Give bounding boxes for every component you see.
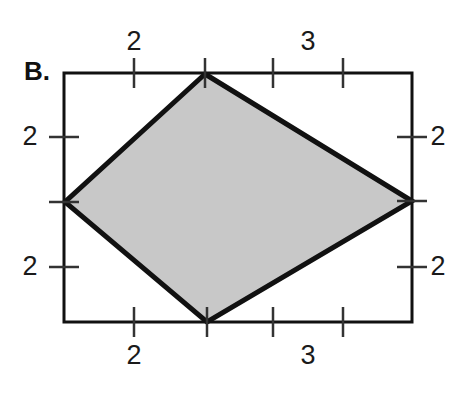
label-top-right-segment: 3 bbox=[290, 28, 326, 55]
label-top-left-segment: 2 bbox=[116, 28, 152, 55]
panel-letter-b: B. bbox=[24, 58, 50, 84]
label-right-upper-segment: 2 bbox=[422, 123, 454, 150]
figure-panel-b: B. 2 3 2 3 2 2 2 2 bbox=[0, 0, 459, 393]
kite-quadrilateral bbox=[65, 74, 412, 322]
label-left-upper-segment: 2 bbox=[14, 123, 46, 150]
label-bottom-left-segment: 2 bbox=[116, 342, 152, 369]
label-bottom-right-segment: 3 bbox=[290, 342, 326, 369]
figure-canvas bbox=[0, 0, 459, 393]
label-left-lower-segment: 2 bbox=[14, 253, 46, 280]
label-right-lower-segment: 2 bbox=[422, 253, 454, 280]
